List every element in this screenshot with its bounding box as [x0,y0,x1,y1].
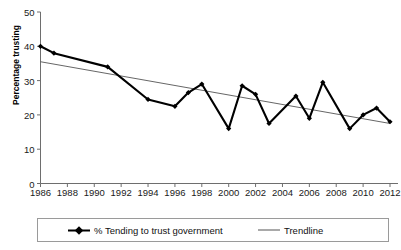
legend-item-series: % Tending to trust government [68,225,223,236]
legend: % Tending to trust government Trendline [37,218,389,242]
series-markers [38,44,393,132]
series-group [38,44,393,132]
legend-item-trendline: Trendline [258,225,323,236]
axes [37,12,398,187]
chart-container: Percentage trusting 01020304050 19861988… [0,0,401,250]
series-line-trust-government [41,46,391,128]
legend-label-series: % Tending to trust government [94,225,223,236]
y-tickmarks [37,12,41,184]
plot-area [0,0,401,250]
legend-label-trendline: Trendline [284,225,323,236]
x-tickmarks [41,184,391,188]
trendline [41,62,391,124]
series-line-diamond-icon [68,226,90,235]
trend-line-icon [258,226,280,235]
trendline-group [41,62,391,124]
